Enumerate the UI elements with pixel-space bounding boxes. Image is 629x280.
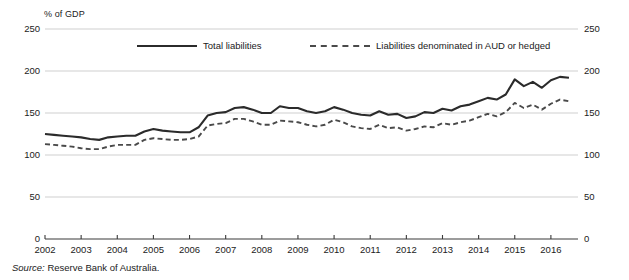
y-axis-tick-label: 100 [14,149,40,160]
legend-label-aud-or-hedged: Liabilities denominated in AUD or hedged [376,40,550,51]
x-axis-tick-label: 2008 [242,244,282,255]
legend-label-total-liabilities: Total liabilities [203,40,262,51]
source-text: Reserve Bank of Australia. [47,262,159,273]
chart-legend: Total liabilities Liabilities denominate… [0,40,629,56]
x-axis-tick-label: 2003 [61,244,101,255]
x-axis-tick-label: 2010 [314,244,354,255]
y-axis-tick-label: 200 [14,65,40,76]
x-axis-tick-label: 2007 [206,244,246,255]
y-axis-tick-label: 250 [14,23,40,34]
x-axis-tick-label: 2005 [133,244,173,255]
y-axis-tick-label: 150 [584,107,610,118]
y-axis-tick-label: 50 [14,191,40,202]
x-axis-tick-label: 2013 [422,244,462,255]
y-axis-tick-label: 50 [584,191,610,202]
x-axis-tick-label: 2011 [350,244,390,255]
x-axis-tick-label: 2006 [170,244,210,255]
y-axis-tick-label: 100 [584,149,610,160]
y-axis-tick-label: 200 [584,65,610,76]
x-axis-tick-label: 2015 [495,244,535,255]
legend-swatch-dashed-line-icon [310,45,370,47]
x-axis-tick-label: 2009 [278,244,318,255]
y-axis-unit-label: % of GDP [44,9,85,19]
legend-item-aud-or-hedged: Liabilities denominated in AUD or hedged [310,40,550,51]
y-axis-tick-label: 0 [14,233,40,244]
x-axis-tick-label: 2012 [386,244,426,255]
x-axis-tick-label: 2014 [459,244,499,255]
data-line-series-0 [45,77,569,140]
y-axis-tick-label: 150 [14,107,40,118]
source-note: Source: Reserve Bank of Australia. [12,262,159,273]
x-axis-tick-label: 2002 [25,244,65,255]
source-label: Source: [12,262,45,273]
y-axis-tick-label: 0 [584,233,610,244]
x-axis-tick-label: 2004 [97,244,137,255]
chart-container: % of GDP 005050100100150150200200250250 … [0,0,629,280]
y-axis-tick-label: 250 [584,23,610,34]
legend-swatch-solid-line-icon [137,45,197,47]
legend-item-total-liabilities: Total liabilities [137,40,262,51]
data-line-series-1 [45,100,569,150]
x-axis-tick-label: 2016 [531,244,571,255]
